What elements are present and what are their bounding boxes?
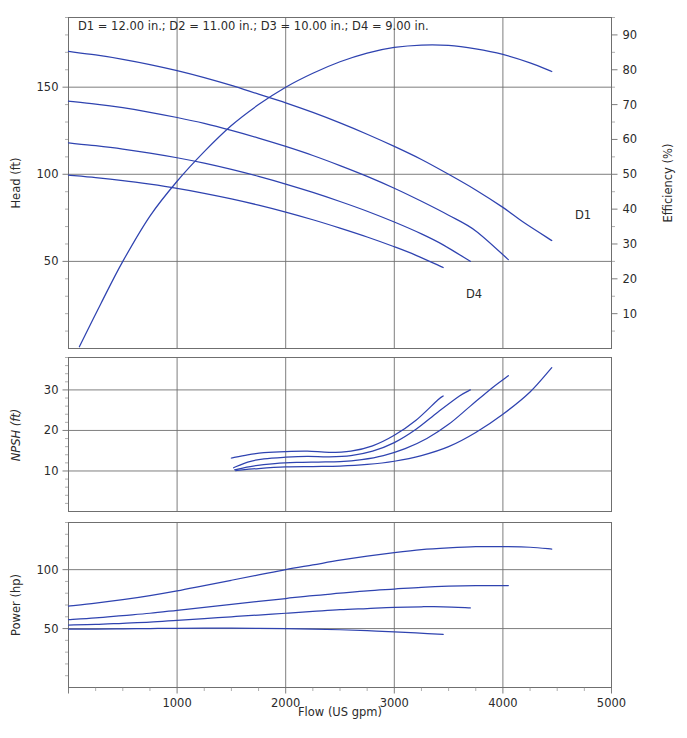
panel1-frame <box>69 18 612 349</box>
svg-text:30: 30 <box>623 237 638 251</box>
svg-text:90: 90 <box>623 28 638 42</box>
svg-text:40: 40 <box>623 202 638 216</box>
panel-npsh: 102030 NPSH (ft) <box>9 358 612 512</box>
svg-text:2000: 2000 <box>271 696 300 710</box>
x-axis-title: Flow (US gpm) <box>298 705 382 719</box>
panel3-ticks <box>63 523 69 676</box>
x-axis: 10002000300040005000 Flow (US gpm) <box>69 688 627 720</box>
svg-text:3000: 3000 <box>380 696 409 710</box>
svg-text:10: 10 <box>44 464 59 478</box>
svg-text:50: 50 <box>623 167 638 181</box>
diameter-caption: D1 = 12.00 in.; D2 = 11.00 in.; D3 = 10.… <box>78 19 429 33</box>
panel2-curves <box>231 368 551 471</box>
svg-text:100: 100 <box>37 167 59 181</box>
panel-head-efficiency: 50100150102030405060708090 D1 = 12.00 in… <box>9 18 675 349</box>
x-axis-ticks <box>69 688 612 694</box>
svg-text:5000: 5000 <box>597 696 626 710</box>
panel2-ticks <box>63 358 69 504</box>
svg-text:80: 80 <box>623 63 638 77</box>
panel2-tick-labels: 102030 <box>44 383 59 478</box>
panel2-gridlines <box>69 358 612 512</box>
panel2-frame <box>69 358 612 512</box>
svg-text:20: 20 <box>623 272 638 286</box>
pump-performance-chart: 50100150102030405060708090 D1 = 12.00 in… <box>0 0 687 738</box>
npsh-axis-title: NPSH (ft) <box>9 409 23 462</box>
svg-text:50: 50 <box>44 622 59 636</box>
head-axis-title: Head (ft) <box>9 157 23 208</box>
chart-canvas: 50100150102030405060708090 D1 = 12.00 in… <box>0 0 687 738</box>
svg-text:100: 100 <box>37 563 59 577</box>
annotation-d4: D4 <box>466 287 482 301</box>
panel1-gridlines <box>69 18 612 349</box>
panel-power: 50100 Power (hp) <box>9 523 612 688</box>
svg-text:60: 60 <box>623 132 638 146</box>
svg-text:1000: 1000 <box>162 696 191 710</box>
annotation-d1: D1 <box>575 208 591 222</box>
power-axis-title: Power (hp) <box>9 574 23 636</box>
x-axis-tick-labels: 10002000300040005000 <box>162 696 626 710</box>
svg-text:50: 50 <box>44 254 59 268</box>
panel3-curves <box>69 547 552 635</box>
efficiency-axis-title: Efficiency (%) <box>661 144 675 223</box>
svg-text:10: 10 <box>623 307 638 321</box>
svg-text:150: 150 <box>37 80 59 94</box>
panel3-tick-labels: 50100 <box>37 563 59 636</box>
svg-text:70: 70 <box>623 98 638 112</box>
svg-text:4000: 4000 <box>488 696 517 710</box>
svg-text:20: 20 <box>44 423 59 437</box>
panel1-curves <box>69 45 552 347</box>
svg-text:30: 30 <box>44 383 59 397</box>
